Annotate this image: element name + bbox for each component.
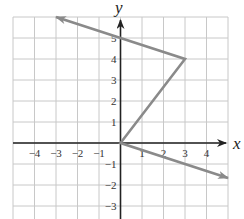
- y-tick-label: 4: [111, 53, 117, 65]
- y-tick-label: 2: [111, 95, 117, 107]
- y-tick-label: 3: [111, 74, 117, 86]
- y-tick-label: 5: [111, 32, 117, 44]
- y-tick-label: −1: [105, 158, 117, 170]
- x-tick-label: −4: [29, 147, 41, 159]
- x-tick-label: −1: [93, 147, 105, 159]
- x-axis-label: x: [232, 134, 241, 153]
- y-axis-label: y: [113, 0, 123, 17]
- y-tick-label: −3: [105, 200, 117, 212]
- coordinate-plane: −4−3−2−1123454321−1−2−3 x y: [0, 0, 244, 219]
- x-tick-label: 4: [204, 147, 210, 159]
- y-tick-label: 1: [111, 116, 117, 128]
- x-tick-label: −3: [50, 147, 62, 159]
- x-tick-label: 3: [182, 147, 188, 159]
- x-tick-label: −2: [72, 147, 84, 159]
- axes: [13, 20, 226, 219]
- y-tick-label: −2: [105, 179, 117, 191]
